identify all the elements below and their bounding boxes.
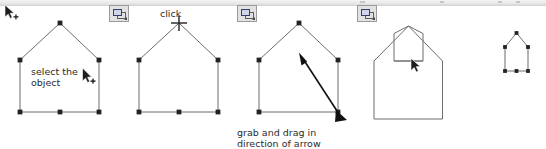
figure-canvas: select the object click (0, 0, 546, 149)
toolbar-speck (360, 1, 365, 3)
toolbar-speck (440, 1, 444, 3)
toolbar-strip (0, 0, 546, 6)
panel-4-pointer-cursor-icon (410, 58, 424, 74)
panel-1-caption-line1: select the (31, 66, 78, 77)
tool-icon-front-rect (361, 9, 370, 16)
toolbar-speck (516, 1, 520, 3)
tool-icon-front-rect (113, 9, 122, 16)
panel-3-caption-line1: grab and drag in (237, 127, 316, 138)
panel-2-select-objects-tool-icon[interactable] (109, 5, 129, 22)
tool-icon-corner-marker (124, 17, 127, 20)
panel-4-select-objects-tool-icon[interactable] (357, 5, 377, 22)
tool-icon-corner-marker (372, 17, 375, 20)
panel-3-caption-line2: direction of arrow (237, 138, 321, 149)
tool-icon-front-rect (241, 9, 250, 16)
toolbar-speck (498, 1, 502, 3)
panel-4-result-shapes[interactable] (372, 23, 487, 138)
panel-1-pointer-cursor-icon (81, 68, 101, 90)
panel-5-small-house-shape[interactable] (500, 27, 546, 82)
panel-3-drag-arrow (253, 18, 353, 128)
panel-2-house-shape[interactable] (133, 18, 225, 118)
panel-1-caption-line2: object (31, 77, 60, 88)
